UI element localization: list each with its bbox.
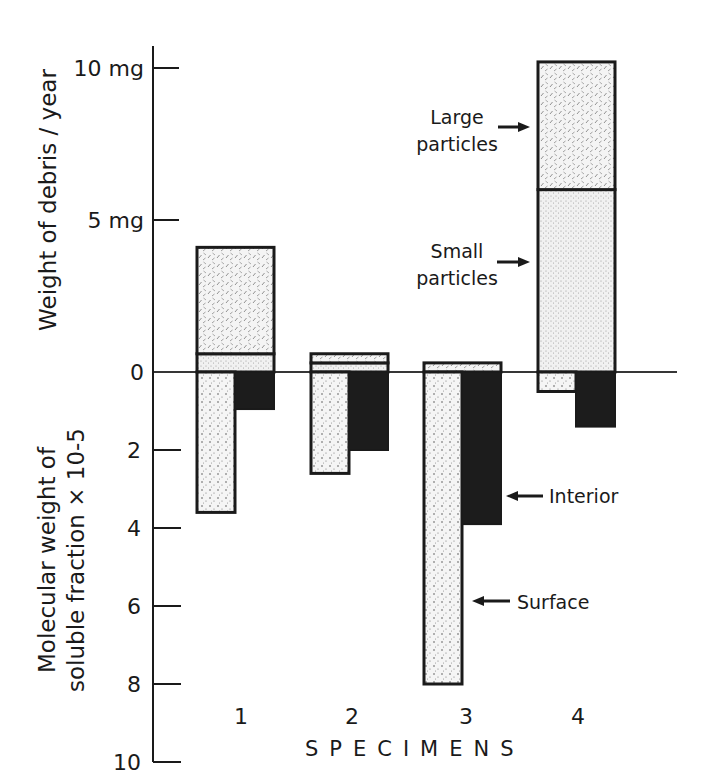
bars <box>153 62 677 684</box>
arrow-icon-small-particles <box>497 257 530 267</box>
upper-y-axis-title: Weight of debris / year <box>35 69 61 331</box>
bar-interior-2 <box>349 372 388 450</box>
category-label-2: 2 <box>345 704 359 729</box>
annotation-interior: Interior <box>549 485 618 507</box>
annotation-small-particles-line2: particles <box>416 267 498 289</box>
lower-tick-label-6: 6 <box>127 594 141 619</box>
bar-interior-1 <box>235 372 274 409</box>
lower-y-axis-title-line2: soluble fraction × 10-5 <box>63 428 89 692</box>
lower-y-axis-title-line1: Molecular weight of <box>34 446 60 673</box>
x-axis-title: SPECIMENS <box>305 737 525 761</box>
arrow-icon-interior <box>506 491 543 501</box>
bar-large-particles-2 <box>311 354 388 363</box>
category-label-3: 3 <box>459 704 473 729</box>
bar-surface-2 <box>311 372 349 473</box>
bar-interior-4 <box>576 372 615 427</box>
lower-tick-label-8: 8 <box>127 672 141 697</box>
bar-surface-1 <box>197 372 235 512</box>
category-label-4: 4 <box>571 704 585 729</box>
annotation-small-particles-line1: Small <box>431 240 484 262</box>
bar-interior-3 <box>462 372 501 524</box>
bar-large-particles-1 <box>197 247 274 353</box>
lower-tick-label-4: 4 <box>127 516 141 541</box>
annotation-surface: Surface <box>517 591 589 613</box>
bar-large-particles-4 <box>538 62 615 190</box>
bar-surface-4 <box>538 372 576 392</box>
chart: 05 mg10 mg246810 Weight of debris / year… <box>0 0 701 781</box>
annotation-large-particles-line2: particles <box>416 133 498 155</box>
bar-surface-3 <box>424 372 462 684</box>
lower-tick-label-10: 10 <box>113 750 141 775</box>
lower-tick-label-2: 2 <box>127 438 141 463</box>
upper-tick-label-0: 0 <box>130 360 144 385</box>
bar-small-particles-4 <box>538 190 615 372</box>
upper-tick-label-10: 10 mg <box>74 56 144 81</box>
annotation-large-particles-line1: Large <box>430 106 483 128</box>
category-label-1: 1 <box>234 704 248 729</box>
arrow-icon-large-particles <box>498 122 530 132</box>
arrow-icon-surface <box>472 596 510 606</box>
upper-tick-label-5: 5 mg <box>88 208 144 233</box>
bar-small-particles-1 <box>197 354 274 372</box>
